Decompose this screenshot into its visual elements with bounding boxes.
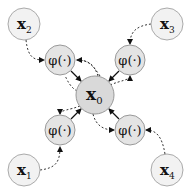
node-x3: x3 — [151, 8, 183, 40]
svg-text:φ(·): φ(·) — [48, 53, 71, 68]
node-x4: x4 — [151, 154, 183, 186]
edge-x1-to-phi — [40, 147, 60, 170]
node-phi-top-left: φ(·) — [45, 45, 75, 75]
edge-x0-to-phi-tl-arrow — [77, 60, 98, 76]
edge-phi-tr-to-x0 — [109, 71, 119, 81]
message-passing-diagram: x2 x3 x1 x4 φ(·) φ(·) φ(·) φ(·) x0 — [0, 0, 191, 193]
svg-text:φ(·): φ(·) — [118, 123, 141, 138]
node-x2: x2 — [8, 8, 40, 40]
svg-text:φ(·): φ(·) — [48, 123, 71, 138]
edge-phi-tl-to-x0 — [71, 71, 81, 81]
edge-phi-bl-to-x0 — [71, 109, 81, 119]
edge-x2-to-phi — [26, 40, 44, 60]
node-phi-top-right: φ(·) — [115, 45, 145, 75]
edge-x3-to-phi — [130, 24, 151, 44]
node-phi-bottom-right: φ(·) — [115, 115, 145, 145]
node-x0-center: x0 — [76, 76, 114, 114]
edge-x0-to-phi-br — [93, 114, 114, 130]
svg-text:φ(·): φ(·) — [118, 53, 141, 68]
node-x1: x1 — [8, 154, 40, 186]
edge-x4-to-phi — [146, 130, 165, 154]
edge-phi-br-to-x0 — [109, 109, 119, 119]
node-phi-bottom-left: φ(·) — [45, 115, 75, 145]
